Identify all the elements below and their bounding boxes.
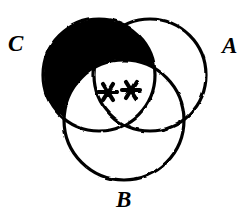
venn-diagram-figure: C A B	[0, 0, 252, 222]
set-label-b: B	[116, 188, 131, 211]
set-label-a: A	[222, 34, 237, 57]
set-label-c: C	[8, 32, 23, 55]
